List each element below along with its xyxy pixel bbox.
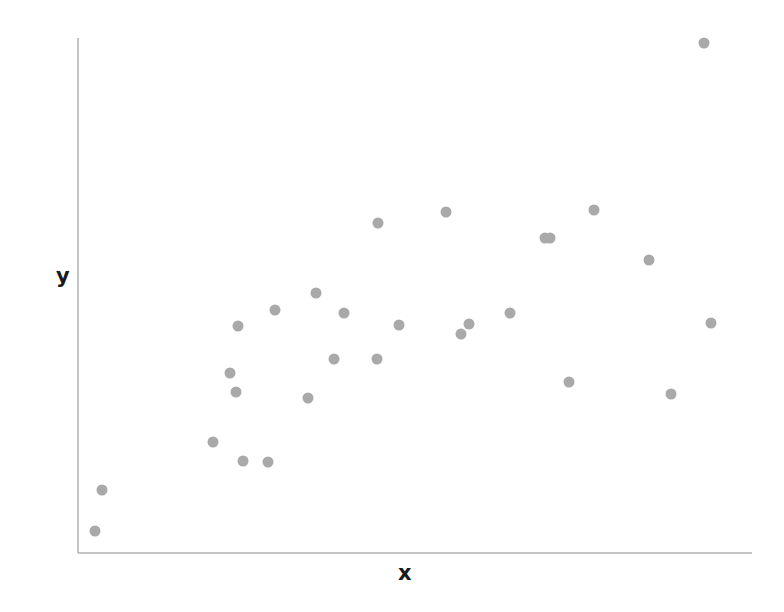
x-axis-label: x	[398, 563, 412, 584]
data-point	[231, 387, 242, 398]
data-point	[225, 368, 236, 379]
data-point	[263, 457, 274, 468]
data-point	[644, 255, 655, 266]
plot-canvas	[0, 0, 784, 612]
data-point	[666, 389, 677, 400]
data-point	[303, 393, 314, 404]
data-point	[270, 305, 281, 316]
data-points-group	[90, 38, 717, 537]
data-point	[329, 354, 340, 365]
data-point	[394, 320, 405, 331]
data-point	[311, 288, 322, 299]
data-point	[545, 233, 556, 244]
data-point	[464, 319, 475, 330]
data-point	[90, 526, 101, 537]
data-point	[373, 218, 384, 229]
data-point	[441, 207, 452, 218]
data-point	[339, 308, 350, 319]
data-point	[238, 456, 249, 467]
axes-group	[78, 38, 752, 553]
data-point	[564, 377, 575, 388]
data-point	[589, 205, 600, 216]
data-point	[505, 308, 516, 319]
data-point	[233, 321, 244, 332]
data-point	[208, 437, 219, 448]
data-point	[456, 329, 467, 340]
data-point	[699, 38, 710, 49]
data-point	[372, 354, 383, 365]
data-point	[97, 485, 108, 496]
scatter-plot-figure: y x	[0, 0, 784, 612]
data-point	[706, 318, 717, 329]
y-axis-label: y	[56, 266, 70, 287]
